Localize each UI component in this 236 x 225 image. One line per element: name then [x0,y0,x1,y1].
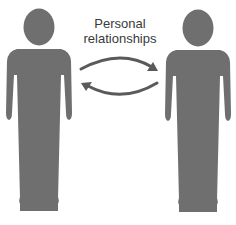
arrow-right-curved-icon [81,58,158,71]
person-right-icon [165,10,231,213]
arrow-left-curved-icon [81,82,157,94]
person-left-icon [6,9,72,212]
relationship-label-line-2: relationships [70,31,170,46]
relationship-label: Personal relationships [70,16,170,46]
relationship-label-line-1: Personal [70,16,170,31]
